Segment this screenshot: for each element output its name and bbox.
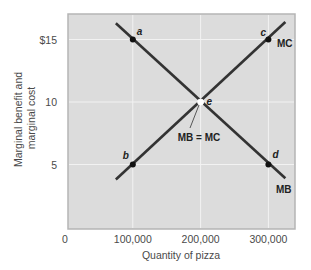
y-axis-title-line-1: Marginal benefit and xyxy=(12,72,24,167)
point-d xyxy=(265,162,271,168)
point-c xyxy=(265,37,271,43)
point-e xyxy=(198,99,204,105)
point-label-a: a xyxy=(137,26,143,37)
point-label-b: b xyxy=(123,150,129,161)
y-axis-ticks: 510$15 xyxy=(39,34,57,171)
mb-equals-mc-label: MB = MC xyxy=(178,132,221,143)
point-b xyxy=(130,162,136,168)
point-a xyxy=(130,37,136,43)
x-tick-label: 300,000 xyxy=(249,233,287,245)
point-label-c: c xyxy=(260,27,266,38)
y-axis-title-line-2: marginal cost xyxy=(25,87,37,150)
mb-mc-chart: 0100,000200,000300,000 510$15 MCMB MB = … xyxy=(0,0,311,270)
point-label-e: e xyxy=(207,96,213,107)
point-label-d: d xyxy=(272,149,279,160)
x-axis-ticks: 0100,000200,000300,000 xyxy=(62,233,287,245)
y-tick-label: 5 xyxy=(51,159,57,171)
x-tick-label: 0 xyxy=(62,233,68,245)
mc-label: MC xyxy=(277,38,293,49)
x-axis-title: Quantity of pizza xyxy=(142,249,220,261)
y-tick-label: 10 xyxy=(45,96,57,108)
x-tick-label: 200,000 xyxy=(182,233,220,245)
mb-label: MB xyxy=(276,184,292,195)
y-axis-title: Marginal benefit and marginal cost xyxy=(12,69,37,167)
y-tick-label: $15 xyxy=(39,34,57,46)
x-tick-label: 100,000 xyxy=(114,233,152,245)
